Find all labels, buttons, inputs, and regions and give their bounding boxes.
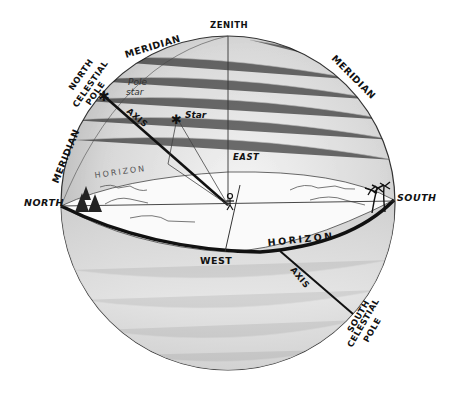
star-marker: ✱ [171, 112, 182, 127]
celestial-sphere-diagram: ✱ ✱ ZENITH MERIDIAN MERIDIAN MERIDIAN NO… [0, 0, 456, 393]
pole-star-label-2: star [126, 87, 145, 97]
west-label: WEST [200, 255, 232, 266]
south-label: SOUTH [397, 192, 437, 203]
pole-star-label-1: Pole [128, 77, 147, 87]
north-label: NORTH [24, 197, 64, 208]
zenith-label: ZENITH [210, 20, 248, 30]
east-label: EAST [233, 152, 260, 162]
star-label: Star [185, 110, 207, 120]
